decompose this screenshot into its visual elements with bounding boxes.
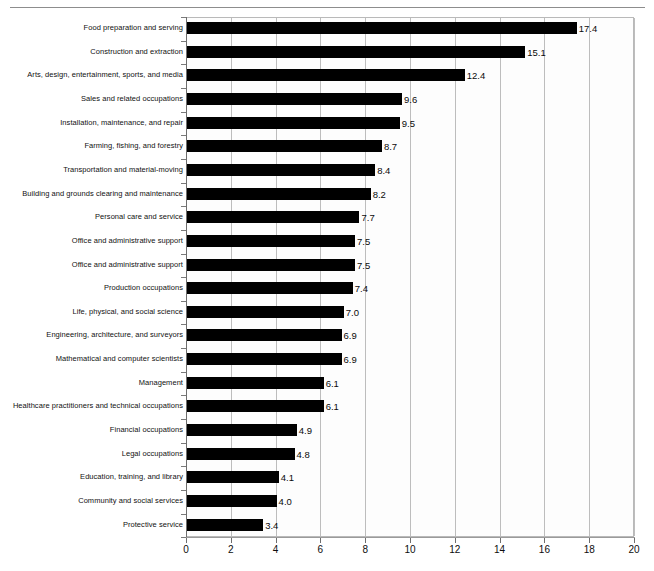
bar-row[interactable]: Transportation and material-moving8.4 — [0, 164, 654, 176]
bar-row[interactable]: Personal care and service7.7 — [0, 211, 654, 223]
bar-row[interactable]: Food preparation and serving17.4 — [0, 22, 654, 34]
bar-row[interactable]: Education, training, and library4.1 — [0, 471, 654, 483]
category-label: Life, physical, and social science — [72, 307, 183, 316]
bar-value-label: 4.1 — [281, 472, 294, 483]
category-label: Mathematical and computer scientists — [56, 354, 183, 363]
category-label: Legal occupations — [122, 449, 183, 458]
bar[interactable] — [187, 377, 324, 389]
bar[interactable] — [187, 259, 355, 271]
bar-value-label: 17.4 — [579, 23, 598, 34]
bar[interactable] — [187, 69, 465, 81]
bar[interactable] — [187, 282, 353, 294]
bar[interactable] — [187, 211, 359, 223]
x-tick-label-2: 2 — [216, 544, 246, 556]
bar-row[interactable]: Production occupations7.4 — [0, 282, 654, 294]
x-tick-0 — [186, 538, 187, 543]
bar[interactable] — [187, 448, 295, 460]
bar-value-label: 6.9 — [344, 330, 357, 341]
category-label: Farming, fishing, and forestry — [84, 141, 183, 150]
category-label: Sales and related occupations — [81, 94, 183, 103]
bar[interactable] — [187, 117, 400, 129]
category-label: Engineering, architecture, and surveyors — [46, 330, 183, 339]
bar-value-label: 7.0 — [346, 307, 359, 318]
bar-value-label: 7.7 — [361, 212, 374, 223]
y-tick-12 — [181, 301, 186, 302]
bar-row[interactable]: Healthcare practitioners and technical o… — [0, 400, 654, 412]
bar-value-label: 15.1 — [527, 47, 546, 58]
x-tick-label-12: 12 — [440, 544, 470, 556]
bar[interactable] — [187, 164, 375, 176]
bar[interactable] — [187, 306, 344, 318]
bar-value-label: 3.4 — [265, 520, 278, 531]
category-label: Management — [139, 378, 183, 387]
y-tick-14 — [181, 348, 186, 349]
y-tick-18 — [181, 443, 186, 444]
bar-row[interactable]: Building and grounds clearing and mainte… — [0, 188, 654, 200]
bar[interactable] — [187, 329, 342, 341]
bar-row[interactable]: Office and administrative support7.5 — [0, 235, 654, 247]
bar-value-label: 9.5 — [402, 118, 415, 129]
bar-row[interactable]: Arts, design, entertainment, sports, and… — [0, 69, 654, 81]
bar[interactable] — [187, 353, 342, 365]
x-tick-20 — [634, 538, 635, 543]
bar[interactable] — [187, 235, 355, 247]
bar-value-label: 6.1 — [326, 378, 339, 389]
bar-value-label: 6.9 — [344, 354, 357, 365]
bar-row[interactable]: Installation, maintenance, and repair9.5 — [0, 117, 654, 129]
bar-value-label: 8.2 — [373, 189, 386, 200]
category-label: Construction and extraction — [90, 47, 183, 56]
bar-row[interactable]: Life, physical, and social science7.0 — [0, 306, 654, 318]
bar[interactable] — [187, 46, 525, 58]
bar-row[interactable]: Protective service3.4 — [0, 519, 654, 531]
bar[interactable] — [187, 22, 577, 34]
x-tick-label-14: 14 — [485, 544, 515, 556]
y-tick-19 — [181, 466, 186, 467]
y-tick-11 — [181, 277, 186, 278]
y-tick-13 — [181, 324, 186, 325]
x-tick-8 — [365, 538, 366, 543]
category-label: Financial occupations — [110, 425, 183, 434]
bar-value-label: 4.9 — [299, 425, 312, 436]
category-label: Healthcare practitioners and technical o… — [13, 401, 183, 410]
bar-row[interactable]: Community and social services4.0 — [0, 495, 654, 507]
x-tick-6 — [320, 538, 321, 543]
bar-row[interactable]: Farming, fishing, and forestry8.7 — [0, 140, 654, 152]
bar[interactable] — [187, 93, 402, 105]
bar-value-label: 7.5 — [357, 260, 370, 271]
bar-row[interactable]: Construction and extraction15.1 — [0, 46, 654, 58]
x-tick-12 — [455, 538, 456, 543]
category-label: Protective service — [123, 520, 183, 529]
category-label: Arts, design, entertainment, sports, and… — [27, 70, 183, 79]
x-tick-18 — [589, 538, 590, 543]
bar-value-label: 8.7 — [384, 141, 397, 152]
category-label: Office and administrative support — [72, 236, 183, 245]
bar-value-label: 12.4 — [467, 70, 486, 81]
category-label: Community and social services — [78, 496, 183, 505]
bar[interactable] — [187, 400, 324, 412]
bar[interactable] — [187, 471, 279, 483]
x-tick-10 — [410, 538, 411, 543]
bar[interactable] — [187, 519, 263, 531]
x-tick-4 — [276, 538, 277, 543]
bar-row[interactable]: Management6.1 — [0, 377, 654, 389]
bar-row[interactable]: Office and administrative support7.5 — [0, 259, 654, 271]
category-label: Office and administrative support — [72, 260, 183, 269]
category-label: Education, training, and library — [80, 472, 183, 481]
bar[interactable] — [187, 188, 371, 200]
bar-row[interactable]: Engineering, architecture, and surveyors… — [0, 329, 654, 341]
y-tick-20 — [181, 490, 186, 491]
bar-row[interactable]: Sales and related occupations9.6 — [0, 93, 654, 105]
y-tick-3 — [181, 88, 186, 89]
bar[interactable] — [187, 140, 382, 152]
bar-row[interactable]: Mathematical and computer scientists6.9 — [0, 353, 654, 365]
bar[interactable] — [187, 424, 297, 436]
x-tick-label-6: 6 — [305, 544, 335, 556]
bar-row[interactable]: Legal occupations4.8 — [0, 448, 654, 460]
y-tick-6 — [181, 159, 186, 160]
y-tick-17 — [181, 419, 186, 420]
x-tick-label-0: 0 — [171, 544, 201, 556]
bar-row[interactable]: Financial occupations4.9 — [0, 424, 654, 436]
y-tick-0 — [181, 17, 186, 18]
bar-value-label: 7.5 — [357, 236, 370, 247]
bar[interactable] — [187, 495, 277, 507]
